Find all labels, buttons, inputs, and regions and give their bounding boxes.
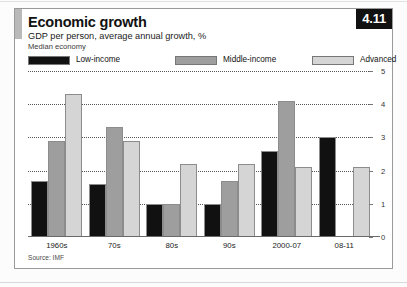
y-tick-5: 5 xyxy=(381,67,385,76)
source-label: Source: IMF xyxy=(28,254,64,261)
page-title: Economic growth xyxy=(28,14,147,30)
y-tick-mark-3 xyxy=(369,137,373,138)
bar xyxy=(106,127,123,237)
bar xyxy=(238,164,255,237)
bar xyxy=(261,151,278,237)
legend-swatch-icon xyxy=(28,56,70,65)
y-tick-mark-5 xyxy=(369,71,373,72)
legend-swatch-icon xyxy=(312,56,354,65)
chart-note: Median economy xyxy=(28,42,86,51)
page-rule-top xyxy=(0,1,407,2)
x-tick-label: 90s xyxy=(201,241,259,250)
title-accent-block xyxy=(15,9,22,39)
chart-subtitle: GDP per person, average annual growth, % xyxy=(28,31,206,41)
bar xyxy=(221,181,238,237)
x-tick-label: 08-11 xyxy=(316,241,374,250)
plot-area: 1960s70s80s90s2000-0708-11 xyxy=(28,71,373,237)
bar xyxy=(295,167,312,237)
y-tick-1: 1 xyxy=(381,199,385,208)
bar xyxy=(278,101,295,237)
bar-group-80s xyxy=(143,71,201,237)
legend-label: Advanced xyxy=(360,55,396,64)
bar xyxy=(146,204,163,237)
y-tick-0: 0 xyxy=(381,233,385,242)
bar xyxy=(65,94,82,237)
legend-label: Low-income xyxy=(76,55,120,64)
bar xyxy=(319,137,336,237)
y-tick-mark-2 xyxy=(369,171,373,172)
x-tick-label: 2000-07 xyxy=(258,241,316,250)
bar xyxy=(163,204,180,237)
y-tick-4: 4 xyxy=(381,100,385,109)
bar-group-70s xyxy=(86,71,144,237)
x-tick-label: 80s xyxy=(143,241,201,250)
axis-baseline xyxy=(28,236,380,237)
bar xyxy=(89,184,106,237)
bar xyxy=(31,181,48,237)
y-tick-mark-4 xyxy=(369,104,373,105)
bar xyxy=(353,167,370,237)
legend-label: Middle-income xyxy=(223,55,276,64)
chart-card: 4.11 Economic growth GDP per person, ave… xyxy=(14,8,393,269)
y-axis: 012345 xyxy=(373,71,403,251)
bar-group-1960s xyxy=(28,71,86,237)
figure-number-badge: 4.11 xyxy=(356,9,392,29)
y-tick-mark-0 xyxy=(369,237,373,238)
bar xyxy=(123,141,140,237)
bar-group-90s xyxy=(201,71,259,237)
bar xyxy=(48,141,65,237)
x-tick-label: 70s xyxy=(86,241,144,250)
page: 4.11 Economic growth GDP per person, ave… xyxy=(0,0,407,287)
page-rule-bottom xyxy=(0,282,407,283)
bar-group-2000-07 xyxy=(258,71,316,237)
y-tick-2: 2 xyxy=(381,166,385,175)
y-tick-mark-1 xyxy=(369,204,373,205)
bar xyxy=(204,204,221,237)
x-tick-label: 1960s xyxy=(28,241,86,250)
bar xyxy=(180,164,197,237)
y-tick-3: 3 xyxy=(381,133,385,142)
legend-swatch-icon xyxy=(175,56,217,65)
bar-groups xyxy=(28,71,373,237)
bar-group-08-11 xyxy=(316,71,374,237)
